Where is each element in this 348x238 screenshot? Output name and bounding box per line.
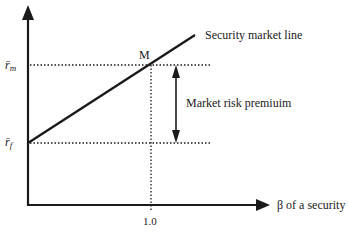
point-m-label: M [139, 48, 150, 62]
market-return-label: r̄m [5, 58, 17, 73]
x-axis-arrow-icon [256, 199, 270, 211]
y-axis-arrow-icon [22, 5, 34, 20]
security-market-line [28, 35, 195, 143]
premium-label: Market risk premiuim [186, 96, 292, 110]
x-axis-label: β of a security [277, 198, 345, 212]
premium-arrow-up-icon [172, 65, 180, 78]
riskfree-return-label: r̄f [5, 135, 14, 150]
sml-diagram: r̄m r̄f M Security market line Market ri… [0, 0, 348, 238]
premium-arrow-down-icon [172, 130, 180, 143]
sml-label: Security market line [205, 28, 302, 42]
x-tick-label: 1.0 [143, 215, 157, 227]
